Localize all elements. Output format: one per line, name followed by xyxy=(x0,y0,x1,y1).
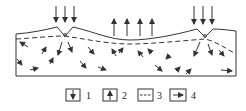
legend-label-3: 3 xyxy=(157,90,162,101)
discharge-arrows xyxy=(114,19,152,36)
water-table xyxy=(16,36,236,54)
legend-item-2: 2 xyxy=(103,89,127,101)
flow-arrow-icon xyxy=(194,42,200,56)
flow-arrow-icon xyxy=(155,65,162,71)
legend-item-1: 1 xyxy=(66,89,91,101)
flow-arrow-icon xyxy=(42,47,46,54)
flow-arrow-icon xyxy=(30,68,38,70)
legend-item-4: 4 xyxy=(170,89,196,101)
legend-label-1: 1 xyxy=(86,90,91,101)
cross-section xyxy=(16,27,236,76)
flow-arrow-icon xyxy=(98,67,106,70)
discharge-point-icons xyxy=(64,34,207,38)
recharge-arrows-left xyxy=(56,6,74,22)
flow-arrow-icon xyxy=(58,42,62,55)
ground-surface xyxy=(16,27,236,40)
groundwater-flow-diagram: 1 2 3 4 xyxy=(0,0,246,111)
flow-arrow-icon xyxy=(176,67,180,71)
flow-arrow-icon xyxy=(208,44,212,55)
flow-arrow-icon xyxy=(68,42,72,52)
flow-arrow-icon xyxy=(186,69,191,74)
flow-arrow-icon xyxy=(138,51,143,57)
flow-arrow-icon xyxy=(112,49,116,56)
legend-label-4: 4 xyxy=(191,90,196,101)
flow-arrow-icon xyxy=(50,58,53,64)
flow-arrow-icon xyxy=(88,47,94,54)
legend-label-2: 2 xyxy=(122,90,127,101)
flow-arrow-icon xyxy=(166,55,170,59)
flow-arrow-icon xyxy=(17,59,22,65)
flow-arrow-icon xyxy=(20,42,28,47)
flow-arrow-icon xyxy=(80,61,86,68)
flow-arrow-icon xyxy=(148,49,152,53)
flow-arrow-icon xyxy=(119,48,123,53)
flow-arrow-icon xyxy=(219,50,224,56)
recharge-arrows-right xyxy=(194,6,212,24)
flow-arrow-icon xyxy=(221,70,232,71)
flow-arrows xyxy=(17,42,232,74)
legend: 1 2 3 4 xyxy=(66,89,196,101)
legend-item-3: 3 xyxy=(138,89,162,101)
